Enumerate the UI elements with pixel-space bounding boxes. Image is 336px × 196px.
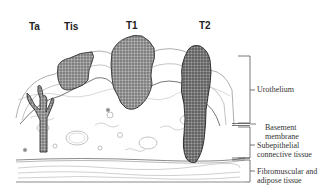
stage-label-t1: T1 bbox=[126, 20, 138, 31]
layer-label-subepithelial: Subepithelial connective tissue bbox=[257, 141, 312, 159]
subepithelial-line1: Subepithelial bbox=[257, 141, 312, 150]
layer-label-fibromuscular: Fibromuscular and adipose tissue bbox=[257, 167, 317, 185]
fibromuscular-layer bbox=[16, 158, 245, 182]
fibromuscular-line2: adipose tissue bbox=[257, 176, 317, 185]
fibromuscular-line1: Fibromuscular and bbox=[257, 167, 317, 176]
stage-label-tis: Tis bbox=[64, 21, 78, 32]
urothelium-text: Urothelium bbox=[257, 85, 294, 94]
basement-line2: membrane bbox=[265, 132, 299, 141]
stage-label-t2: T2 bbox=[199, 20, 211, 31]
layer-label-urothelium: Urothelium bbox=[257, 85, 294, 94]
stage-label-ta: Ta bbox=[29, 21, 40, 32]
layer-brackets bbox=[232, 56, 256, 182]
tumor-t2 bbox=[181, 46, 211, 163]
tumor-tis bbox=[58, 52, 94, 90]
layer-label-basement-membrane: Basement membrane bbox=[265, 123, 299, 141]
subepithelial-line2: connective tissue bbox=[257, 150, 312, 159]
basement-line1: Basement bbox=[265, 123, 299, 132]
